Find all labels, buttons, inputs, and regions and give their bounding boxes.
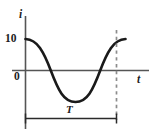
period-label: T	[66, 104, 73, 115]
x-axis-label: t	[137, 74, 140, 86]
graph-canvas	[0, 0, 151, 140]
y-axis-label: i	[19, 9, 22, 21]
y-tick-label-10: 10	[5, 33, 17, 45]
origin-label-0: 0	[14, 71, 20, 83]
current-vs-time-figure: i t 10 0 T	[0, 0, 151, 140]
